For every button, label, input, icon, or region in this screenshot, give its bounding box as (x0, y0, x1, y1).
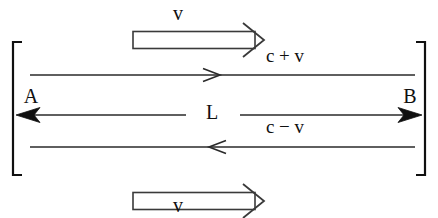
diagram-canvas: v c + v L A B c − v (0, 0, 438, 218)
physics-diagram: v c + v L A B c − v (0, 0, 438, 218)
bottom-velocity-label: v (173, 194, 183, 216)
top-block-arrow (133, 23, 264, 57)
forward-speed-label: c + v (266, 45, 305, 66)
backward-light-ray (30, 141, 415, 154)
right-bracket (416, 42, 425, 175)
length-dimension-line (16, 108, 422, 123)
length-label: L (206, 101, 218, 123)
bottom-block-arrow-shaft (133, 193, 255, 210)
backward-speed-label: c − v (266, 116, 305, 137)
top-block-arrow-shaft (133, 32, 255, 49)
forward-light-ray (30, 69, 415, 82)
bottom-block-arrow (133, 184, 264, 218)
endpoint-label-b: B (403, 85, 416, 107)
top-velocity-label: v (173, 2, 183, 24)
left-bracket (13, 42, 22, 175)
endpoint-label-a: A (24, 85, 39, 107)
